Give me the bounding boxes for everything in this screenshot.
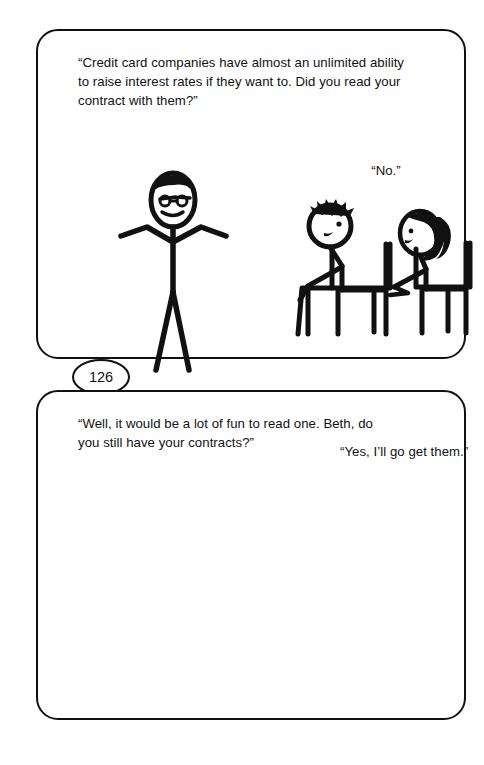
panel-2-dialogue-reply: “Yes, I’ll go get them.”	[340, 442, 470, 461]
figure-girl-bob-hair-panel-1	[378, 211, 484, 366]
panel-2-dialogue-main: “Well, it would be a lot of fun to read …	[78, 414, 378, 452]
comic-page: “Credit card companies have almost an un…	[0, 0, 484, 765]
figure-man-with-glasses-panel-1	[116, 174, 246, 374]
panel-1-dialogue-reply: “No.”	[326, 161, 446, 180]
comic-panel-1: “Credit card companies have almost an un…	[36, 29, 466, 359]
comic-panel-2: “Well, it would be a lot of fun to read …	[36, 390, 466, 720]
panel-1-dialogue-main: “Credit card companies have almost an un…	[78, 53, 408, 111]
